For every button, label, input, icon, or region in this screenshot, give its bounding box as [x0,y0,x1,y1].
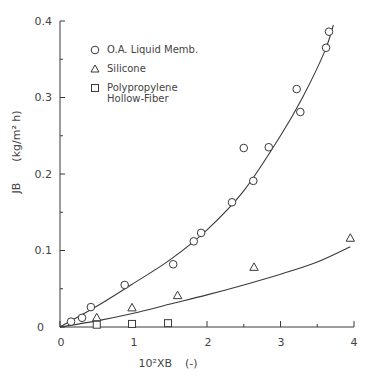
legend: O.A. Liquid Memb. Silicone Polypropylene… [91,44,198,104]
x-tick-label: 3 [278,336,285,349]
legend-label-oa-liquid-memb: O.A. Liquid Memb. [107,44,198,55]
data-point-triangle [128,303,136,311]
legend-label-silicone: Silicone [107,63,146,74]
data-point-triangle [250,263,258,271]
x-axis-unit: (-) [185,357,198,370]
data-point-circle [322,44,330,52]
legend-label-hollow-fiber: Hollow-Fiber [107,93,169,104]
chart: 0.4 0.3 0.2 0.1 0 0 1 2 3 4 10²XB (-) JB… [0,0,370,376]
y-tick-label: 0.1 [35,244,53,257]
data-point-triangle [346,234,354,242]
y-axis-unit: (kg/m² h) [10,110,23,161]
data-point-circle [325,28,333,36]
data-point-circle [190,238,198,246]
legend-triangle-icon [91,65,99,72]
legend-circle-icon [91,46,99,54]
y-tick-label: 0.4 [35,15,53,28]
data-point-circle [169,260,177,268]
data-point-circle [197,229,205,237]
legend-square-icon [92,85,99,92]
x-tick-label: 4 [351,336,358,349]
data-point-circle [228,199,236,207]
x-axis-title: 10²XB [139,357,173,370]
data-point-circle [297,108,305,116]
x-tick-label: 2 [205,336,212,349]
y-tick-label: 0 [37,321,44,334]
data-point-square [93,321,100,328]
x-tick-label: 0 [58,336,65,349]
data-point-circle [87,303,95,311]
y-tick-label: 0.2 [35,168,53,181]
y-axis-title: JB [10,183,23,195]
fit-curve [60,25,333,327]
data-point-circle [265,143,273,151]
data-point-square [165,320,172,327]
data-point-square [129,320,136,327]
data-point-circle [121,281,129,289]
legend-label-polypropylene: Polypropylene [107,82,178,93]
data-point-triangle [93,313,101,321]
data-point-circle [293,85,301,93]
data-point-circle [240,144,248,152]
fit-curves [60,25,350,327]
x-tick-label: 1 [131,336,138,349]
data-point-triangle [173,291,181,299]
data-point-circle [67,318,75,326]
y-tick-label: 0.3 [35,91,53,104]
axes [60,21,354,327]
fit-curve [60,247,350,327]
data-point-circle [78,314,86,322]
data-point-circle [250,177,258,185]
